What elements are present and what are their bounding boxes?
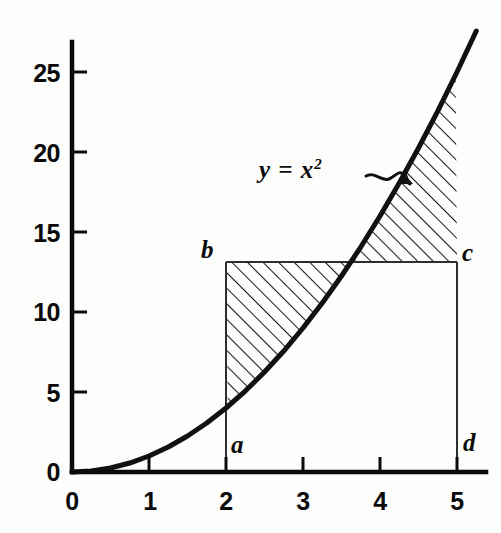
equation-pointer-squiggle (366, 172, 413, 184)
x-tick-label-2: 2 (206, 487, 246, 516)
curve-equation-exponent: 2 (314, 156, 323, 172)
y-tick-label-25: 25 (18, 59, 60, 88)
x-tick-label-4: 4 (360, 487, 400, 516)
x-tick-label-0: 0 (52, 487, 92, 516)
corner-label-b: b (201, 236, 214, 264)
corner-label-a: a (231, 431, 244, 459)
hatched-region-left (226, 262, 351, 407)
curve-equation-label: y = x2 (259, 156, 323, 184)
y-tick-label-5: 5 (18, 379, 60, 408)
y-tick-label-15: 15 (18, 219, 60, 248)
curve-equation-main: y = x (259, 156, 314, 183)
y-tick-label-20: 20 (18, 139, 60, 168)
y-tick-label-0: 0 (18, 458, 60, 487)
chart-plot-area (0, 0, 501, 533)
x-tick-label-1: 1 (130, 487, 170, 516)
corner-label-c: c (462, 239, 473, 267)
chart-figure: 25 20 15 10 5 0 0 1 2 3 4 5 b c a d y = … (0, 0, 501, 533)
corner-label-d: d (463, 429, 476, 457)
x-tick-label-5: 5 (437, 487, 477, 516)
y-tick-label-10: 10 (18, 298, 60, 327)
x-tick-label-3: 3 (283, 487, 323, 516)
